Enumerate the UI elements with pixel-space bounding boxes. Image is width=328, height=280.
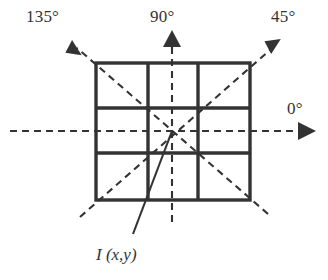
axis-0-arrowhead bbox=[298, 122, 316, 140]
axis-label-45: 45° bbox=[271, 8, 295, 25]
axis-135-arrowhead bbox=[64, 39, 82, 57]
axis-label-0: 0° bbox=[287, 100, 303, 117]
direction-axes bbox=[10, 30, 316, 222]
pixel-leader-line bbox=[133, 131, 172, 234]
gradient-direction-figure: 135° 90° 45° 0° I (x,y) bbox=[0, 0, 328, 280]
axis-45-arrowhead bbox=[263, 37, 281, 55]
center-pixel-label: I (x,y) bbox=[96, 246, 137, 263]
axis-90-arrowhead bbox=[163, 30, 181, 47]
axis-0-group bbox=[10, 122, 316, 140]
figure-canvas bbox=[0, 0, 328, 280]
axis-label-90: 90° bbox=[150, 8, 174, 25]
axis-label-135: 135° bbox=[26, 8, 59, 25]
